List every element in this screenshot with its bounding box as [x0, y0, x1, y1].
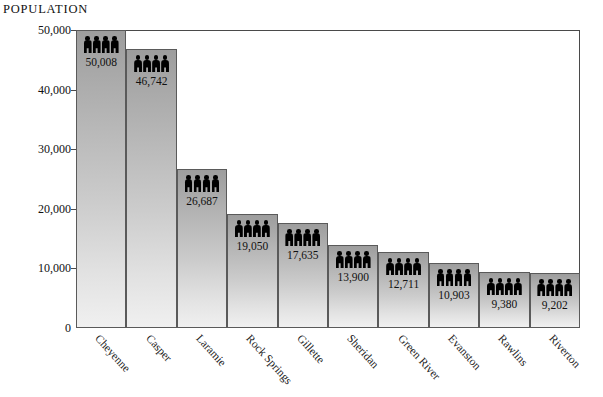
person-icon [101, 36, 110, 53]
person-icon [92, 36, 101, 53]
person-icon [564, 279, 573, 296]
bar-value-label: 13,900 [329, 271, 377, 283]
bar-value-label: 17,635 [279, 249, 327, 261]
person-icon [294, 229, 303, 246]
people-icon-group [77, 36, 125, 53]
bar-cheyenne[interactable]: 50,008 [76, 30, 126, 328]
person-icon [504, 278, 513, 295]
x-axis-label-rock-springs: Rock Springs [244, 332, 295, 386]
person-icon [252, 220, 261, 237]
bar-value-label: 46,742 [127, 75, 175, 87]
person-icon [495, 278, 504, 295]
people-icon-group [178, 175, 226, 192]
person-icon [303, 229, 312, 246]
bar-value-label: 10,903 [430, 289, 478, 301]
x-axis-label-riverton: Riverton [547, 332, 583, 370]
bar-value-label: 26,687 [178, 195, 226, 207]
bar-casper[interactable]: 46,742 [126, 49, 176, 328]
people-icon-group [531, 279, 579, 296]
x-axis-label-laramie: Laramie [194, 332, 229, 369]
person-icon [454, 269, 463, 286]
person-icon [395, 258, 404, 275]
person-icon [413, 258, 422, 275]
person-icon [285, 229, 294, 246]
y-axis-tick-label: 30,000 [38, 142, 71, 157]
bars-layer: 50,00846,74226,68719,05017,63513,90012,7… [76, 30, 580, 328]
y-axis-tick-label: 0 [65, 321, 71, 336]
bar-laramie[interactable]: 26,687 [177, 169, 227, 328]
people-icon-group [127, 55, 175, 72]
x-axis-label-green-river: Green River [396, 332, 443, 382]
person-icon [335, 251, 344, 268]
person-icon [261, 220, 270, 237]
person-icon [344, 251, 353, 268]
x-axis-label-gillette: Gillette [295, 332, 327, 366]
bar-riverton[interactable]: 9,202 [530, 273, 580, 328]
bar-value-label: 50,008 [77, 56, 125, 68]
y-axis-tick-label: 40,000 [38, 82, 71, 97]
person-icon [193, 175, 202, 192]
person-icon [243, 220, 252, 237]
people-icon-group [430, 269, 478, 286]
bar-sheridan[interactable]: 13,900 [328, 245, 378, 328]
people-icon-group [329, 251, 377, 268]
bar-rock-springs[interactable]: 19,050 [227, 214, 277, 328]
person-icon [486, 278, 495, 295]
person-icon [546, 279, 555, 296]
person-icon [362, 251, 371, 268]
x-axis-label-sheridan: Sheridan [345, 332, 381, 370]
bar-evanston[interactable]: 10,903 [429, 263, 479, 328]
person-icon [110, 36, 119, 53]
person-icon [436, 269, 445, 286]
bar-gillette[interactable]: 17,635 [278, 223, 328, 328]
bar-value-label: 19,050 [228, 240, 276, 252]
person-icon [463, 269, 472, 286]
x-axis-category-labels: CheyenneCasperLaramieRock SpringsGillett… [76, 330, 580, 397]
person-icon [143, 55, 152, 72]
person-icon [404, 258, 413, 275]
person-icon [202, 175, 211, 192]
person-icon [312, 229, 321, 246]
y-axis-tick-label: 20,000 [38, 201, 71, 216]
bar-value-label: 9,202 [531, 299, 579, 311]
x-axis-label-rawlins: Rawlins [496, 332, 530, 368]
person-icon [386, 258, 395, 275]
person-icon [152, 55, 161, 72]
bar-value-label: 12,711 [379, 278, 427, 290]
people-icon-group [379, 258, 427, 275]
x-axis-label-casper: Casper [144, 332, 174, 364]
person-icon [134, 55, 143, 72]
y-axis-tick-label: 10,000 [38, 261, 71, 276]
person-icon [83, 36, 92, 53]
bar-green-river[interactable]: 12,711 [378, 252, 428, 328]
person-icon [513, 278, 522, 295]
people-icon-group [480, 278, 528, 295]
x-axis-label-cheyenne: Cheyenne [93, 332, 133, 374]
person-icon [184, 175, 193, 192]
people-icon-group [279, 229, 327, 246]
bar-rawlins[interactable]: 9,380 [479, 272, 529, 328]
y-axis-tick-labels: 010,00020,00030,00040,00050,000 [0, 0, 71, 397]
person-icon [234, 220, 243, 237]
people-icon-group [228, 220, 276, 237]
x-axis-label-evanston: Evanston [446, 332, 484, 372]
person-icon [555, 279, 564, 296]
bar-value-label: 9,380 [480, 298, 528, 310]
person-icon [537, 279, 546, 296]
person-icon [445, 269, 454, 286]
y-axis-tick-label: 50,000 [38, 23, 71, 38]
person-icon [211, 175, 220, 192]
person-icon [161, 55, 170, 72]
person-icon [353, 251, 362, 268]
